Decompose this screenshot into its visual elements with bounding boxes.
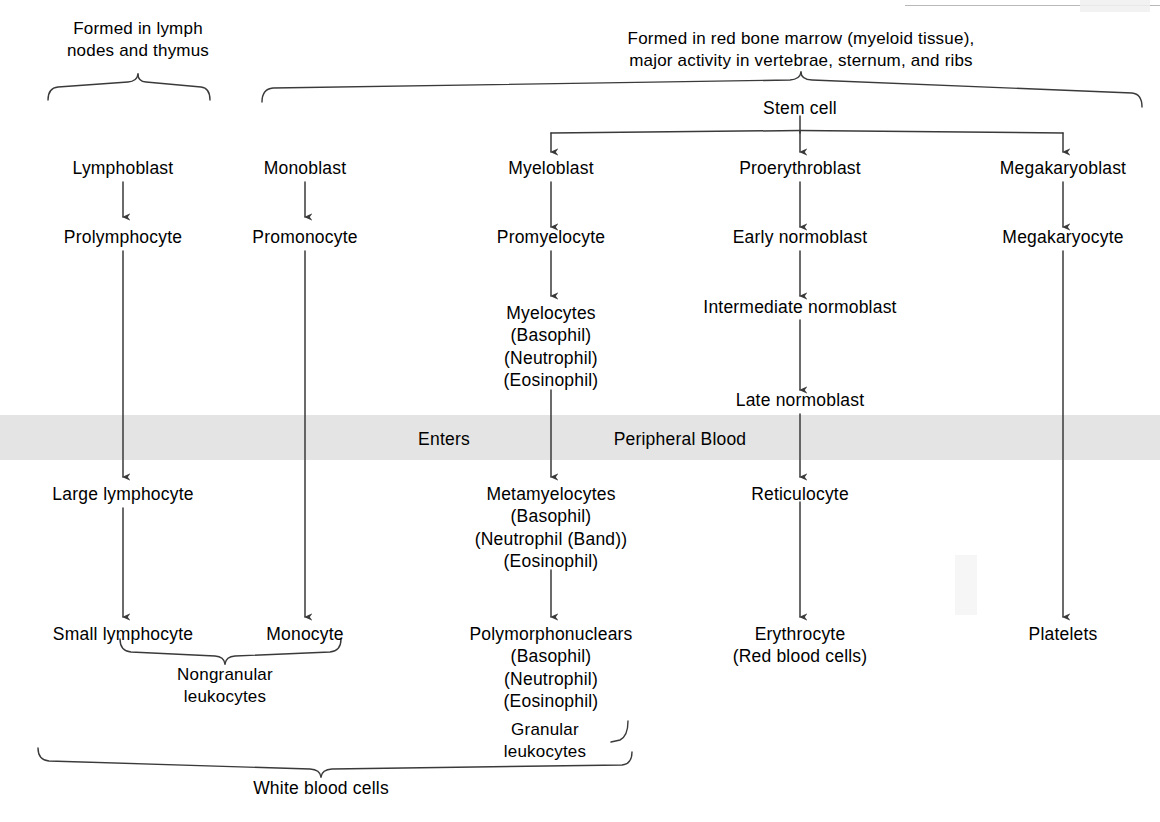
node-reticulocyte: Reticulocyte (751, 483, 849, 505)
node-megakaryoblast: Megakaryoblast (1000, 157, 1126, 179)
stem-cell-branch (551, 116, 1063, 152)
peripheral-blood-band (0, 415, 1160, 460)
group-label-white-blood-cells: White blood cells (253, 777, 389, 799)
node-large-lymphocyte: Large lymphocyte (52, 483, 193, 505)
group-label-granular-leukocytes: Granular leukocytes (504, 719, 586, 763)
node-metamyelocytes: Metamyelocytes (Basophil) (Neutrophil (B… (475, 483, 628, 573)
node-polymorphonuclears: Polymorphonuclears (Basophil) (Neutrophi… (469, 623, 632, 713)
node-promonocyte: Promonocyte (252, 226, 357, 248)
node-myelocytes: Myelocytes (Basophil) (Neutrophil) (Eosi… (504, 302, 599, 392)
node-early-normoblast: Early normoblast (733, 226, 868, 248)
node-platelets: Platelets (1029, 623, 1098, 645)
blood-cell-formation-diagram: Formed in lymph nodes and thymus Formed … (0, 0, 1160, 822)
band-peripheral-blood-label: Peripheral Blood (614, 428, 747, 450)
band-enters-label: Enters (418, 428, 470, 450)
group-label-nongranular-leukocytes: Nongranular leukocytes (177, 664, 273, 708)
node-proerythroblast: Proerythroblast (739, 157, 861, 179)
node-intermediate-normoblast: Intermediate normoblast (703, 296, 896, 318)
scan-smudge-mid (955, 555, 977, 615)
brace-lymph-header (48, 74, 210, 100)
node-monoblast: Monoblast (264, 157, 347, 179)
lymph-header-label: Formed in lymph nodes and thymus (67, 18, 209, 63)
brace-marrow-header (262, 72, 1142, 107)
node-myeloblast: Myeloblast (508, 157, 594, 179)
marrow-header-label: Formed in red bone marrow (myeloid tissu… (628, 28, 975, 73)
node-promyelocyte: Promyelocyte (497, 226, 605, 248)
node-small-lymphocyte: Small lymphocyte (53, 623, 193, 645)
node-late-normoblast: Late normoblast (736, 389, 865, 411)
node-stem-cell: Stem cell (763, 97, 837, 119)
node-megakaryocyte: Megakaryocyte (1002, 226, 1123, 248)
node-prolymphocyte: Prolymphocyte (64, 226, 182, 248)
scan-smudge (1080, 0, 1150, 12)
brace-granular (611, 721, 628, 742)
node-erythrocyte: Erythrocyte (Red blood cells) (733, 623, 868, 668)
node-monocyte: Monocyte (266, 623, 343, 645)
node-lymphoblast: Lymphoblast (73, 157, 174, 179)
